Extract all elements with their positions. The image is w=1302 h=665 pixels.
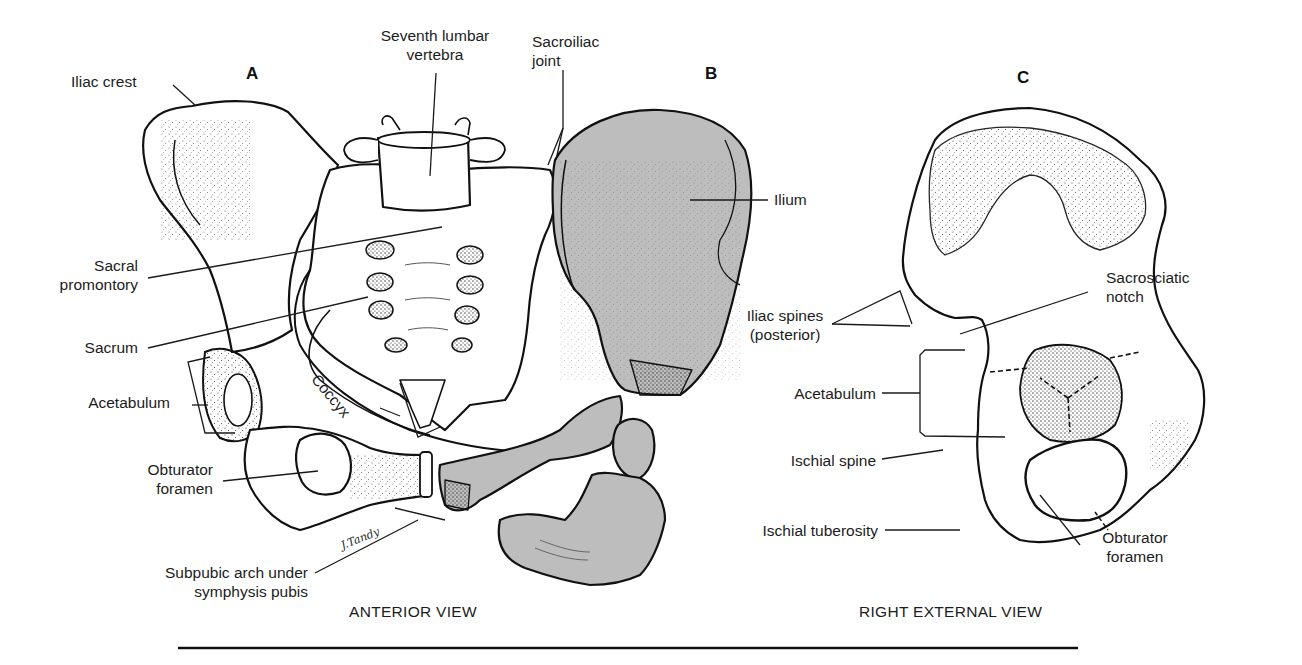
label-obturator-foramen-anterior: Obturator foramen	[80, 460, 213, 498]
label-seventh-lumbar-line1: Seventh lumbar	[370, 26, 500, 45]
label-subpubic-arch: Subpubic arch under symphysis pubis	[100, 563, 308, 601]
right-femoral-head-shaded	[613, 419, 654, 478]
label-obturator-anterior-line2: foramen	[80, 479, 213, 498]
label-acetabulum-lateral: Acetabulum	[740, 384, 876, 403]
label-ischial-spine: Ischial spine	[740, 451, 876, 470]
panel-label-a: A	[246, 64, 258, 84]
label-sacrosciatic-line2: notch	[1106, 287, 1190, 306]
label-obturator-lateral-line2: foramen	[1080, 547, 1190, 566]
left-obturator-foramen-shape	[296, 434, 351, 495]
panel-label-b: B	[705, 64, 717, 84]
right-ischium-shaded	[499, 473, 665, 585]
lateral-hip-bone-drawing	[903, 108, 1204, 542]
label-subpubic-line2: symphysis pubis	[100, 582, 308, 601]
label-iliac-spines-posterior: Iliac spines (posterior)	[735, 306, 835, 344]
label-iliac-spines-line2: (posterior)	[735, 325, 835, 344]
label-sacroiliac-line2: joint	[532, 51, 599, 70]
caption-right-external-view: RIGHT EXTERNAL VIEW	[859, 603, 1042, 621]
label-sacral-promontory-line2: promontory	[20, 275, 138, 294]
label-subpubic-line1: Subpubic arch under	[100, 563, 308, 582]
label-iliac-spines-line1: Iliac spines	[735, 306, 835, 325]
label-obturator-anterior-line1: Obturator	[80, 460, 213, 479]
label-sacrosciatic-notch: Sacrosciatic notch	[1106, 268, 1190, 306]
label-sacroiliac-joint: Sacroiliac joint	[532, 32, 599, 70]
label-sacral-promontory-line1: Sacral	[20, 256, 138, 275]
label-seventh-lumbar-line2: vertebra	[370, 45, 500, 64]
label-sacroiliac-line1: Sacroiliac	[532, 32, 599, 51]
label-acetabulum-anterior: Acetabulum	[30, 393, 170, 412]
label-sacrosciatic-line1: Sacrosciatic	[1106, 268, 1190, 287]
label-ischial-tuberosity: Ischial tuberosity	[720, 521, 878, 540]
label-sacrum: Sacrum	[40, 338, 138, 357]
label-ilium: Ilium	[774, 190, 807, 209]
label-obturator-foramen-lateral: Obturator foramen	[1080, 528, 1190, 566]
panel-label-c: C	[1017, 68, 1029, 88]
label-sacral-promontory: Sacral promontory	[20, 256, 138, 294]
caption-anterior-view: ANTERIOR VIEW	[349, 603, 477, 621]
lateral-acetabulum-socket	[1020, 345, 1122, 442]
label-seventh-lumbar-vertebra: Seventh lumbar vertebra	[370, 26, 500, 64]
label-iliac-crest: Iliac crest	[71, 72, 136, 91]
label-obturator-lateral-line1: Obturator	[1080, 528, 1190, 547]
